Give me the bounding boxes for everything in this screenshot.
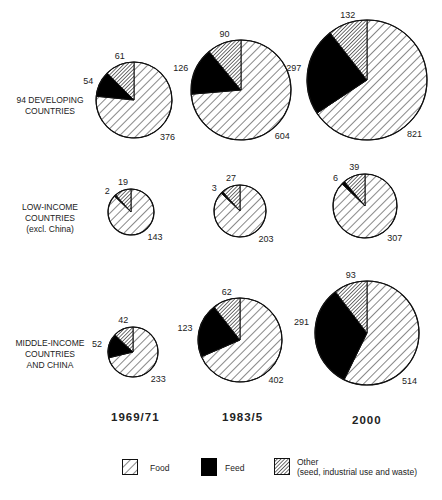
slice-value-label: 2	[105, 186, 110, 196]
slice-value-label: 402	[269, 375, 284, 385]
slice-value-label: 307	[387, 233, 402, 243]
feed-swatch-icon	[201, 458, 217, 476]
slice-value-label: 297	[286, 63, 301, 73]
slice-value-label: 6	[333, 173, 338, 183]
slice-value-label: 3	[212, 183, 217, 193]
slice-value-label: 143	[147, 232, 162, 242]
slice-value-label: 126	[173, 63, 188, 73]
slice-value-label: 514	[402, 376, 417, 386]
legend-label-food: Food	[150, 463, 169, 473]
row-label-line: COUNTRIES	[4, 349, 96, 360]
row-label-line: (excl. China)	[4, 224, 96, 235]
row-label-line: AND CHINA	[4, 360, 96, 371]
legend-label-other: Other	[297, 457, 318, 467]
legend-sublabel-other: (seed, industrial use and waste)	[297, 467, 417, 477]
slice-value-label: 233	[151, 374, 166, 384]
slice-value-label: 604	[275, 131, 290, 141]
legend-item-food: Food	[122, 459, 192, 475]
row-label-middle-income: MIDDLE-INCOME COUNTRIES AND CHINA	[4, 338, 96, 371]
slice-value-label: 291	[294, 317, 309, 327]
row-label-line: COUNTRIES	[4, 106, 96, 117]
row-label-developing: 94 DEVELOPING COUNTRIES	[4, 95, 96, 117]
food-swatch-icon	[122, 459, 138, 475]
row-label-line: COUNTRIES	[4, 213, 96, 224]
slice-value-label: 132	[340, 10, 355, 20]
slice-value-label: 123	[177, 323, 192, 333]
row-label-low-income: LOW-INCOME COUNTRIES (excl. China)	[4, 202, 96, 235]
row-label-line: LOW-INCOME	[4, 202, 96, 213]
slice-value-label: 203	[258, 234, 273, 244]
slice-value-label: 54	[83, 76, 93, 86]
column-label-2000: 2000	[352, 414, 382, 426]
legend-label-feed: Feed	[225, 463, 244, 473]
legend-item-other: Other (seed, industrial use and waste)	[274, 458, 442, 478]
row-label-line: 94 DEVELOPING	[4, 95, 96, 106]
slice-value-label: 821	[407, 129, 422, 139]
column-label-1969-71: 1969/71	[111, 411, 160, 423]
row-label-line: MIDDLE-INCOME	[4, 338, 96, 349]
slice-value-label: 62	[222, 287, 232, 297]
pies-group	[96, 20, 427, 385]
other-swatch-icon	[274, 458, 290, 475]
legend-item-feed: Feed	[201, 459, 271, 475]
slice-value-label: 27	[226, 173, 236, 183]
slice-value-label: 19	[118, 177, 128, 187]
slice-value-label: 61	[115, 51, 125, 61]
slice-value-label: 93	[346, 270, 356, 280]
slice-value-label: 42	[118, 315, 128, 325]
slice-value-label: 376	[160, 132, 175, 142]
slice-value-label: 39	[349, 162, 359, 172]
column-label-1983-5: 1983/5	[222, 411, 263, 423]
slice-value-label: 90	[219, 29, 229, 39]
